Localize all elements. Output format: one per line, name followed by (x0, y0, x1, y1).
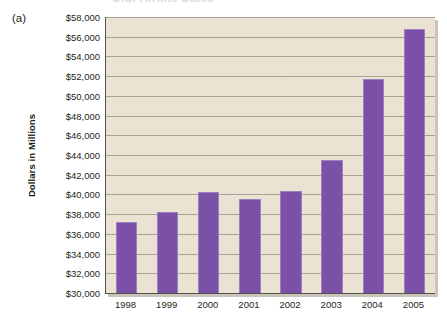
panel-label: (a) (12, 12, 26, 24)
y-tick-label: $52,000 (36, 71, 100, 82)
bar[interactable] (239, 199, 260, 293)
bar[interactable] (198, 192, 219, 293)
bar-slot (280, 17, 301, 293)
bar-slot (116, 17, 137, 293)
bar[interactable] (404, 29, 425, 293)
bar-slot (157, 17, 178, 293)
y-tick-label: $44,000 (36, 150, 100, 161)
y-tick-label: $58,000 (36, 12, 100, 23)
gridline (106, 293, 435, 294)
y-tick-label: $46,000 (36, 130, 100, 141)
bar-slot (239, 17, 260, 293)
x-tick-label: 2001 (238, 299, 259, 310)
bar-slot (363, 17, 384, 293)
bar-slot (198, 17, 219, 293)
x-tick-label: 2000 (197, 299, 218, 310)
y-tick-label: $32,000 (36, 268, 100, 279)
x-tick-label: 2002 (279, 299, 300, 310)
x-tick-label: 2003 (321, 299, 342, 310)
bar-slot (404, 17, 425, 293)
bar[interactable] (363, 79, 384, 293)
y-axis-title: Dollars in Millions (26, 101, 37, 211)
bar[interactable] (116, 222, 137, 293)
chart-title: U.S. Airline Sales (112, 0, 214, 5)
x-tick-label: 2005 (403, 299, 424, 310)
bar-slot (321, 17, 342, 293)
y-tick-label: $34,000 (36, 248, 100, 259)
figure-panel-a: U.S. Airline Sales (a) Dollars in Millio… (0, 0, 447, 327)
y-tick-label: $50,000 (36, 90, 100, 101)
bar-series (106, 17, 435, 293)
y-tick-label: $56,000 (36, 31, 100, 42)
y-tick-label: $48,000 (36, 110, 100, 121)
y-tick-label: $38,000 (36, 209, 100, 220)
bar[interactable] (321, 160, 342, 293)
x-tick-label: 1998 (115, 299, 136, 310)
plot-area: $58,000$56,000$54,000$52,000$50,000$48,0… (105, 17, 435, 294)
y-tick-label: $42,000 (36, 169, 100, 180)
x-tick-label: 1999 (156, 299, 177, 310)
x-tick-label: 2004 (362, 299, 383, 310)
y-tick-label: $54,000 (36, 51, 100, 62)
bar[interactable] (280, 191, 301, 294)
chart-title-strip: U.S. Airline Sales (0, 0, 447, 7)
bar[interactable] (157, 212, 178, 293)
y-tick-label: $30,000 (36, 288, 100, 299)
y-tick-label: $36,000 (36, 228, 100, 239)
y-tick-label: $40,000 (36, 189, 100, 200)
